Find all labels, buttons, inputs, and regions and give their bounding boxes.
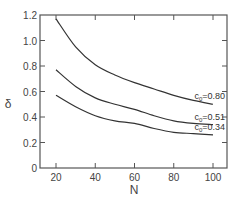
x-tick-label: 40: [90, 172, 102, 183]
y-tick-label: 0: [31, 163, 37, 174]
curve-c0=0.34: [56, 95, 213, 135]
curve-labels: c0=0.80c0=0.51c0=0.34: [194, 91, 225, 133]
x-axis-label: N: [130, 183, 139, 197]
curve-c0=0.80: [56, 19, 213, 104]
y-tick-label: 1.2: [23, 10, 37, 21]
x-tick-label: 20: [50, 172, 62, 183]
y-tick-label: 0.4: [23, 112, 37, 123]
y-axis-label: δ: [5, 97, 12, 111]
x-tick-label: 60: [129, 172, 141, 183]
y-tick-label: 0.6: [23, 87, 37, 98]
y-tick-label: 0.8: [23, 61, 37, 72]
curve-c0=0.51: [56, 70, 213, 125]
plot-frame: [40, 15, 227, 168]
chart: 2040608010000.20.40.60.81.01.2 c0=0.80c0…: [0, 0, 240, 201]
curve-label: c0=0.80: [194, 91, 225, 102]
y-tick-label: 0.2: [23, 138, 37, 149]
x-tick-label: 80: [168, 172, 180, 183]
y-tick-label: 1.0: [23, 36, 37, 47]
x-tick-label: 100: [205, 172, 222, 183]
curves: [56, 19, 213, 135]
